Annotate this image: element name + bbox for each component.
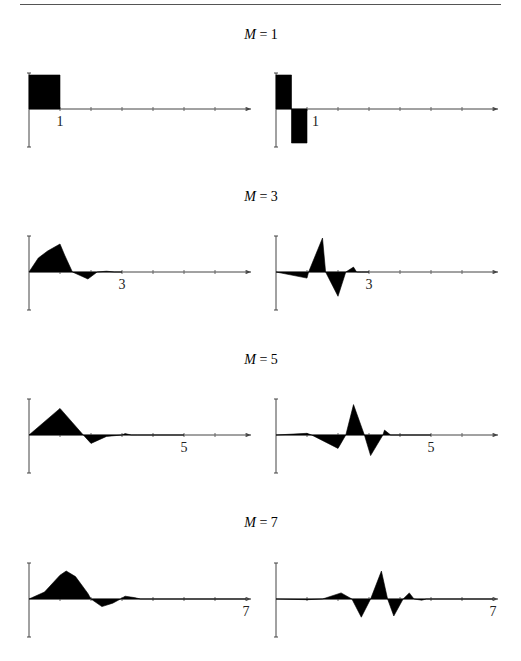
x-tick-label: 1 [57, 114, 64, 129]
waveform-area [276, 405, 431, 456]
plot-1-wavelet: 1 [274, 73, 498, 147]
waveform-area [29, 75, 60, 109]
x-tick-label: 1 [312, 114, 319, 129]
plot-3-wavelet: 3 [274, 236, 498, 310]
row-label-m3: M = 3 [244, 189, 278, 205]
x-tick-label: 3 [119, 277, 126, 292]
waveform-area [276, 75, 307, 143]
plot-7-wavelet: 7 [274, 563, 498, 637]
x-tick-label: 3 [366, 277, 373, 292]
x-tick-label: 5 [181, 440, 188, 455]
x-tick-label: 7 [243, 604, 250, 619]
waveform-area [29, 571, 246, 607]
plot-1-scaling: 1 [27, 73, 251, 147]
waveform-area [29, 244, 122, 279]
row-label-m1: M = 1 [244, 27, 278, 43]
row-label-m7: M = 7 [244, 515, 278, 531]
row-label-m5: M = 5 [244, 352, 278, 368]
wavelet-figure: 11335577 [0, 0, 521, 661]
plot-5-wavelet: 5 [274, 399, 498, 473]
plot-7-scaling: 7 [27, 563, 251, 637]
waveform-area [276, 571, 493, 617]
plot-3-scaling: 3 [27, 236, 251, 310]
waveform-area [29, 408, 184, 443]
x-tick-label: 5 [428, 440, 435, 455]
x-tick-label: 7 [490, 604, 497, 619]
waveform-area [276, 238, 369, 296]
plot-5-scaling: 5 [27, 399, 251, 473]
